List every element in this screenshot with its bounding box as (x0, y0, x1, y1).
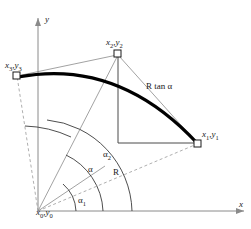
svg-text:α2: α2 (103, 149, 111, 161)
x-axis-label: x (238, 199, 243, 209)
angle-arc-outer (25, 126, 71, 137)
diagram-canvas: y x x3,y3 x2,y2 x1,y1 x0,y0 R tan (0, 0, 251, 229)
angle-ray-alpha (38, 166, 105, 211)
radius-label: R (113, 167, 119, 177)
point-label-p3: x3,y3 (4, 60, 22, 72)
svg-text:x2,y2: x2,y2 (105, 37, 123, 49)
p1-y-sub: 1 (216, 134, 219, 141)
svg-text:x0,y0: x0,y0 (35, 207, 53, 219)
tangent-length-label: R tan α (146, 81, 172, 91)
alpha2-sub: 2 (108, 154, 111, 161)
angle-alpha2-label: α2 (103, 149, 111, 161)
radius-line-to-p1 (38, 144, 197, 211)
point-label-p2: x2,y2 (105, 37, 123, 49)
angle-alpha-label: α (88, 164, 93, 174)
angle-alpha1-label: α1 (78, 195, 86, 207)
svg-text:x1,y1: x1,y1 (201, 129, 219, 141)
y-axis-arrowhead (35, 18, 41, 26)
p2-y-sub: 2 (120, 42, 123, 49)
svg-text:α1: α1 (78, 195, 86, 207)
point-label-p0: x0,y0 (35, 207, 53, 219)
marker-p1 (194, 140, 201, 147)
svg-text:x3,y3: x3,y3 (4, 60, 22, 72)
axis-group (35, 18, 244, 214)
p3-y-sub: 3 (19, 65, 22, 72)
marker-p3 (13, 72, 20, 79)
construction-line-group (17, 55, 197, 211)
alpha1-sub: 1 (83, 200, 86, 207)
geometry-diagram: y x x3,y3 x2,y2 x1,y1 x0,y0 R tan (0, 0, 251, 229)
p0-y-sub: 0 (50, 212, 53, 219)
line-origin-to-p2 (38, 55, 118, 211)
y-axis-label: y (44, 14, 49, 24)
radius-line-to-p3 (17, 76, 38, 211)
point-label-p1: x1,y1 (201, 129, 219, 141)
point-marker-group (13, 50, 201, 147)
marker-p2 (114, 50, 121, 57)
